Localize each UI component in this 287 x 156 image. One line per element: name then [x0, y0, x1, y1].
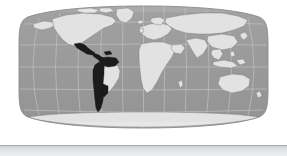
screenshot-root	[0, 0, 287, 156]
world-map-figure	[0, 0, 287, 140]
world-map-svg	[0, 0, 287, 140]
land-british-isles	[139, 28, 144, 33]
bottom-bar	[0, 145, 287, 156]
map-body	[0, 0, 287, 140]
land-philippines	[230, 51, 235, 57]
bottom-bar-top-edge	[0, 145, 287, 146]
